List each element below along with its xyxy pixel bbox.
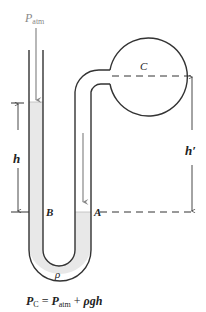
bulb-c (110, 38, 187, 116)
pressure-formula: PC = Patm + ρgh (26, 294, 102, 309)
manometer-diagram: Patm h h′ B A C ρ (0, 0, 206, 312)
patm-label: Patm (24, 11, 45, 26)
point-a-label: A (93, 206, 101, 218)
hprime-label: h′ (185, 143, 196, 158)
density-label: ρ (54, 268, 60, 280)
liquid-column (29, 102, 91, 274)
point-b-label: B (45, 206, 53, 218)
bulb-c-label: C (140, 60, 148, 72)
h-label: h (13, 151, 20, 166)
